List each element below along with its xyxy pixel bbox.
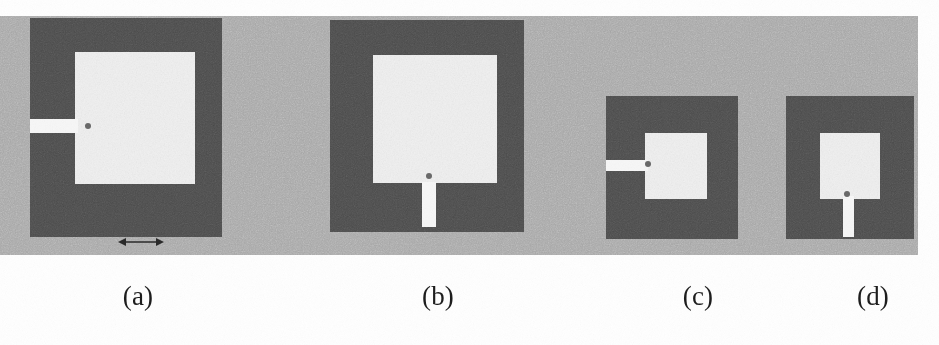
antenna-b-feed-line [422,182,436,227]
antenna-b-feed-point [426,173,432,179]
antenna-b-ground-plane [330,20,524,232]
antenna-b-patch-grain [373,55,497,183]
antenna-a-patch-grain [75,52,195,184]
antenna-a-feed-line [30,119,78,133]
antenna-d-patch-grain [820,133,880,199]
antenna-c-feed-point [645,161,651,167]
antenna-a-dimension-arrow [116,236,166,248]
antenna-d-ground-plane [786,96,914,239]
antenna-c-ground-plane [606,96,738,239]
antenna-a-ground-plane [30,18,222,237]
antenna-d-radiating-patch [820,133,880,199]
caption-c: (c) [648,281,748,312]
antenna-a-feed-point [85,123,91,129]
antenna-c-feed-line [606,160,648,171]
caption-b: (b) [388,281,488,312]
antenna-d-feed-point [844,191,850,197]
figure-background-panel [0,16,918,255]
antenna-c-radiating-patch [645,133,707,199]
antenna-b-radiating-patch [373,55,497,183]
antenna-a-radiating-patch [75,52,195,184]
caption-d: (d) [823,281,923,312]
caption-a: (a) [88,281,188,312]
antenna-c-patch-grain [645,133,707,199]
antenna-d-feed-line [843,196,854,237]
figure-root: (a) (b) (c) (d) [0,0,939,345]
